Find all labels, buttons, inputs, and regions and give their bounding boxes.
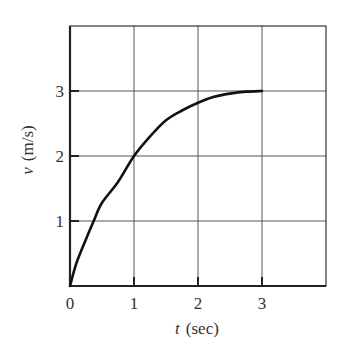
y-axis-label: v(m/s) xyxy=(18,125,37,174)
x-tick-label: 0 xyxy=(66,294,75,313)
y-tick-labels: 123 xyxy=(56,82,65,231)
velocity-curve xyxy=(70,91,262,286)
y-axis-unit: (m/s) xyxy=(18,125,37,161)
x-tick-labels: 0123 xyxy=(66,294,267,313)
x-tick-label: 3 xyxy=(258,294,267,313)
x-axis-variable: t xyxy=(175,319,181,338)
y-tick-label: 3 xyxy=(56,82,65,101)
velocity-time-chart: 0123 123 t(sec) v(m/s) xyxy=(0,0,347,350)
y-axis-variable: v xyxy=(18,167,37,175)
x-axis-unit: (sec) xyxy=(186,319,219,338)
x-tick-label: 2 xyxy=(194,294,203,313)
grid-lines xyxy=(70,26,326,286)
x-axis-label: t(sec) xyxy=(175,319,219,338)
x-tick-label: 1 xyxy=(130,294,139,313)
y-tick-label: 2 xyxy=(56,147,65,166)
y-tick-label: 1 xyxy=(56,212,65,231)
